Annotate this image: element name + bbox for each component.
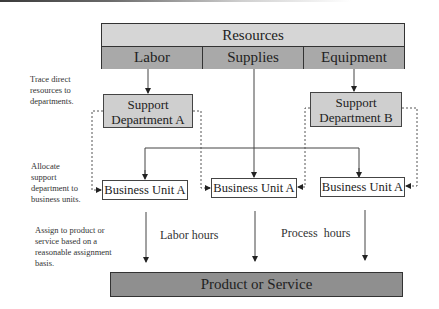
- support-department-b: Support Department B: [310, 92, 402, 127]
- resources-title: Resources: [102, 24, 404, 47]
- resources-table: Resources Labor Supplies Equipment: [101, 23, 405, 69]
- product-or-service: Product or Service: [110, 272, 403, 297]
- note-allocate: Allocate support department to business …: [31, 161, 86, 205]
- resource-equipment: Equipment: [304, 47, 404, 69]
- basis-process-hours: Process hours: [281, 226, 350, 241]
- resource-labor: Labor: [102, 47, 203, 69]
- note-assign: Assign to product or service based on a …: [35, 225, 115, 269]
- resources-items-row: Labor Supplies Equipment: [102, 47, 404, 69]
- support-department-a: Support Department A: [103, 94, 193, 128]
- business-unit-1: Business Unit A: [102, 180, 188, 200]
- note-trace: Trace direct resources to departments.: [30, 74, 90, 107]
- business-unit-3: Business Unit A: [320, 177, 405, 197]
- basis-labor-hours: Labor hours: [160, 228, 218, 243]
- business-unit-2: Business Unit A: [211, 178, 297, 198]
- resource-supplies: Supplies: [203, 47, 304, 69]
